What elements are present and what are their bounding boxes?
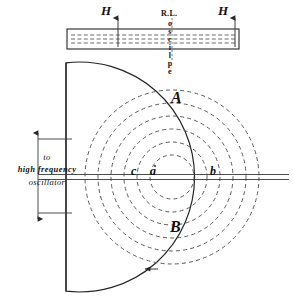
oscillator-label-line3: oscillator (8, 176, 86, 188)
oscillator-label-line2: high frequency (8, 163, 86, 175)
apparatus-diagram (0, 0, 293, 296)
field-label-left: H (101, 4, 112, 17)
oscillator-label: to high frequency oscillator (8, 151, 86, 188)
point-label-b: b (210, 165, 216, 177)
point-label-a: a (150, 165, 156, 177)
quartz-plate (67, 29, 239, 49)
plate-abbrev-label: R.L. (161, 10, 177, 18)
point-label-c: c (131, 165, 136, 177)
region-label-upper: A (171, 90, 182, 106)
region-label-lower: B (170, 219, 181, 235)
field-label-right: H (218, 4, 229, 17)
oscillator-label-line1: to (8, 151, 86, 163)
plate-vertical-label: oscilpe (166, 19, 172, 75)
